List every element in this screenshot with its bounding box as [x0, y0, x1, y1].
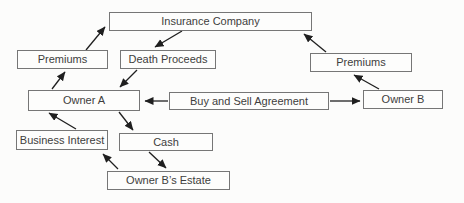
arrow-premiums-left-to-insurance: [86, 27, 105, 50]
buy-sell-agreement-diagram: Insurance Company Premiums Death Proceed…: [0, 0, 464, 203]
node-cash-label: Cash: [153, 137, 179, 148]
node-buy-and-sell-agreement: Buy and Sell Agreement: [169, 92, 329, 110]
node-death-proceeds: Death Proceeds: [120, 50, 216, 69]
node-cash: Cash: [119, 133, 213, 151]
node-owner-b: Owner B: [363, 90, 443, 109]
node-premiums-right-label: Premiums: [336, 57, 386, 68]
node-premiums-left-label: Premiums: [38, 54, 88, 65]
node-insurance-company-label: Insurance Company: [161, 16, 259, 27]
arrow-insurance-to-death-proceeds: [155, 31, 182, 47]
node-buy-and-sell-agreement-label: Buy and Sell Agreement: [190, 96, 308, 107]
arrow-owner-a-to-premiums-left: [52, 72, 65, 89]
node-owner-b-estate: Owner B’s Estate: [107, 171, 230, 190]
arrow-death-proceeds-to-owner-a: [120, 70, 137, 87]
node-business-interest-label: Business Interest: [20, 135, 104, 146]
arrow-estate-to-business-interest: [103, 154, 118, 169]
node-premiums-left: Premiums: [17, 50, 108, 69]
arrow-premiums-right-to-insurance: [304, 34, 326, 52]
node-death-proceeds-label: Death Proceeds: [129, 54, 208, 65]
node-owner-b-label: Owner B: [382, 94, 425, 105]
arrow-owner-b-to-premiums-right: [354, 75, 379, 89]
node-owner-a: Owner A: [28, 90, 140, 111]
node-insurance-company: Insurance Company: [109, 12, 312, 31]
arrow-business-interest-to-owner-a: [49, 113, 76, 129]
arrow-owner-a-to-cash: [119, 112, 133, 130]
node-business-interest: Business Interest: [16, 130, 108, 150]
node-premiums-right: Premiums: [310, 53, 412, 72]
arrow-cash-to-estate: [149, 152, 166, 168]
node-owner-b-estate-label: Owner B’s Estate: [126, 175, 211, 186]
node-owner-a-label: Owner A: [63, 95, 105, 106]
